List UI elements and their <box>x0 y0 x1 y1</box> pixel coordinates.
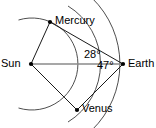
sun-marker-dot <box>29 62 33 66</box>
venus-elongation-angle-label: 47° <box>97 60 114 71</box>
mercury-label: Mercury <box>55 15 95 26</box>
segment-sun-venus <box>31 64 77 110</box>
astronomy-elongation-diagram: Sun Mercury Venus Earth 28° 47° <box>0 0 156 128</box>
earth-label: Earth <box>128 58 154 69</box>
sun-label: Sun <box>1 58 21 69</box>
venus-marker-dot <box>75 108 79 112</box>
venus-label: Venus <box>82 103 113 114</box>
mercury-marker-dot <box>48 20 52 24</box>
segment-sun-mercury <box>31 22 50 64</box>
earth-marker-dot <box>121 62 125 66</box>
